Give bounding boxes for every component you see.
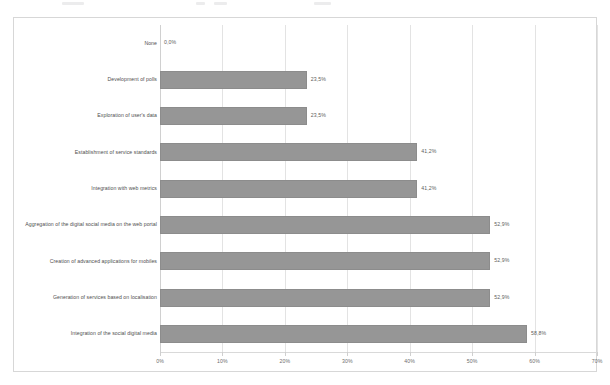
- x-tick-mark: [160, 352, 161, 356]
- bar-row[interactable]: 52,9%: [160, 252, 597, 270]
- plot-area: 0,0%23,5%23,5%41,2%41,2%52,9%52,9%52,9%5…: [160, 25, 597, 352]
- x-tick-label: 70%: [592, 358, 603, 364]
- x-tick-mark: [535, 352, 536, 356]
- category-label: Integration with web metrics: [91, 185, 157, 191]
- x-axis-line: [160, 352, 597, 353]
- category-label: Integration of the social digital media: [71, 330, 157, 336]
- x-tick-mark: [285, 352, 286, 356]
- category-label: None: [144, 40, 157, 46]
- bar-row[interactable]: 52,9%: [160, 289, 597, 307]
- category-label: Establishment of service standards: [75, 149, 157, 155]
- bar[interactable]: [160, 143, 417, 161]
- bar[interactable]: [160, 71, 307, 89]
- x-tick-label: 60%: [529, 358, 540, 364]
- x-tick-mark: [472, 352, 473, 356]
- x-tick-mark: [347, 352, 348, 356]
- bar-value-label: 0,0%: [164, 39, 176, 45]
- bar-value-label: 23,5%: [311, 112, 326, 118]
- x-tick-label: 40%: [404, 358, 415, 364]
- bar[interactable]: [160, 180, 417, 198]
- bar[interactable]: [160, 325, 527, 343]
- bar-row[interactable]: 41,2%: [160, 180, 597, 198]
- bar-row[interactable]: 23,5%: [160, 71, 597, 89]
- bar-row[interactable]: 23,5%: [160, 107, 597, 125]
- bar-value-label: 52,9%: [494, 294, 509, 300]
- category-axis-labels: NoneDevelopment of pollsExploration of u…: [18, 25, 157, 352]
- bar-value-label: 41,2%: [421, 148, 436, 154]
- bar-value-label: 41,2%: [421, 185, 436, 191]
- x-tick-mark: [410, 352, 411, 356]
- gridline-70%: [597, 25, 598, 352]
- bar-row[interactable]: 58,8%: [160, 325, 597, 343]
- x-tick-label: 20%: [280, 358, 291, 364]
- category-label: Exploration of user's data: [97, 112, 157, 118]
- bar-row[interactable]: 41,2%: [160, 143, 597, 161]
- category-label: Development of polls: [108, 76, 157, 82]
- x-tick-mark: [222, 352, 223, 356]
- bar-value-label: 52,9%: [494, 257, 509, 263]
- x-tick-label: 50%: [467, 358, 478, 364]
- bar[interactable]: [160, 107, 307, 125]
- bar-row[interactable]: 0,0%: [160, 34, 597, 52]
- chart-frame: NoneDevelopment of pollsExploration of u…: [13, 17, 597, 372]
- cropped-text-remnant-strip: [0, 0, 610, 13]
- bar-value-label: 58,8%: [531, 330, 546, 336]
- bar-row[interactable]: 52,9%: [160, 216, 597, 234]
- bar[interactable]: [160, 252, 490, 270]
- category-label: Creation of advanced applications for mo…: [50, 258, 157, 264]
- x-tick-label: 30%: [342, 358, 353, 364]
- category-label: Aggregation of the digital social media …: [25, 221, 157, 227]
- x-tick-label: 0%: [156, 358, 164, 364]
- category-label: Generation of services based on localisa…: [53, 294, 157, 300]
- bar-value-label: 23,5%: [311, 76, 326, 82]
- bar[interactable]: [160, 289, 490, 307]
- x-tick-mark: [597, 352, 598, 356]
- bar-value-label: 52,9%: [494, 221, 509, 227]
- bar[interactable]: [160, 216, 490, 234]
- x-tick-label: 10%: [217, 358, 228, 364]
